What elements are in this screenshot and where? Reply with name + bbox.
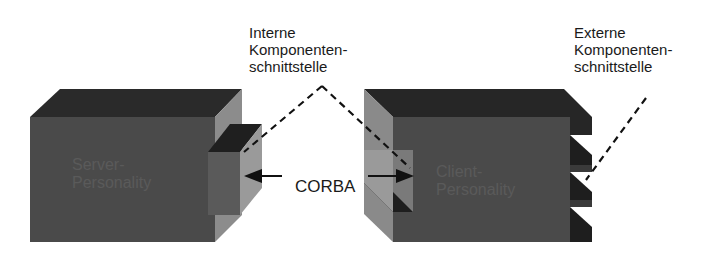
server-top-face bbox=[30, 89, 242, 117]
client-personality-label: Client- Personality bbox=[436, 163, 515, 199]
server-personality-label: Server- Personality bbox=[72, 156, 151, 192]
internal-interface-label: Interne Komponenten- schnittstelle bbox=[249, 24, 347, 75]
external-interface-label: Externe Komponenten- schnittstelle bbox=[574, 24, 672, 75]
corba-label: CORBA bbox=[295, 177, 355, 197]
leader-external bbox=[586, 98, 646, 180]
leader-internal-server bbox=[244, 86, 322, 152]
client-top-face bbox=[364, 89, 592, 117]
server-tab-front bbox=[208, 152, 240, 215]
client-teeth bbox=[570, 117, 592, 242]
